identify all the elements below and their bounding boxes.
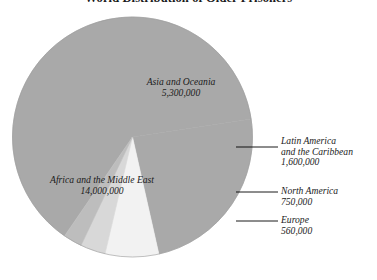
slice-label-africa-and-the-middle-east-value: 14,000,000 — [22, 186, 182, 197]
slice-label-europe: Europe 560,000 — [281, 215, 312, 236]
slice-label-africa-and-the-middle-east: Africa and the Middle East 14,000,000 — [22, 175, 182, 196]
slice-label-north-america-name: North America — [281, 186, 338, 197]
slice-label-europe-name: Europe — [281, 215, 312, 226]
slice-label-north-america-value: 750,000 — [281, 197, 338, 208]
slice-label-north-america: North America 750,000 — [281, 186, 338, 207]
slice-label-latin-america-and-the-caribbean: Latin America and the Caribbean 1,600,00… — [281, 136, 353, 168]
slice-label-europe-value: 560,000 — [281, 226, 312, 237]
slice-label-asia-and-oceania: Asia and Oceania 5,300,000 — [126, 77, 236, 98]
pie-chart-figure: World Distribution of Older Prisoners As… — [0, 0, 377, 280]
slice-label-latin-america-and-the-caribbean-name: Latin America — [281, 136, 353, 147]
slice-label-asia-and-oceania-value: 5,300,000 — [126, 88, 236, 99]
slice-label-latin-america-and-the-caribbean-value: 1,600,000 — [281, 157, 353, 168]
slice-label-africa-and-the-middle-east-name: Africa and the Middle East — [22, 175, 182, 186]
slice-label-asia-and-oceania-name: Asia and Oceania — [126, 77, 236, 88]
